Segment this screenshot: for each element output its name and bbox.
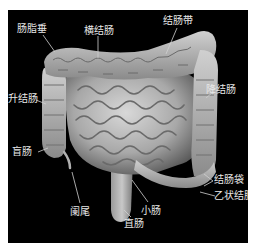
label-small-intestine: 小肠 [141,205,161,216]
label-ascending-colon: 升结肠 [8,93,38,104]
label-rectum: 直肠 [124,218,144,229]
label-appendix: 阑尾 [70,206,90,217]
label-haustra: 结肠袋 [214,174,244,185]
intestine-illustration [8,10,248,243]
descending-colon-shape [191,50,218,178]
label-epiploic-appendages: 肠脂垂 [17,23,47,34]
label-cecum: 盲肠 [12,146,32,157]
diagram-panel: 肠脂垂 横结肠 结肠带 升结肠 降结肠 盲肠 结肠袋 乙状结肠 阑尾 小肠 直肠 [8,10,248,243]
appendix-shape [64,152,70,168]
label-transverse-colon: 横结肠 [84,25,114,36]
transverse-colon-shape [44,31,216,79]
small-intestine-shape [66,72,201,175]
ascending-colon-shape [42,66,70,168]
label-descending-colon: 降结肠 [206,84,236,95]
label-taenia-coli: 结肠带 [163,15,193,26]
label-sigmoid-colon: 乙状结肠 [214,190,248,201]
